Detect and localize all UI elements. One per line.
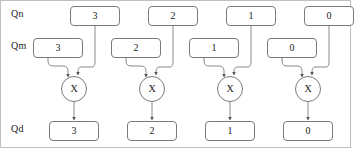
qn-box-stage-3[interactable]: 1 bbox=[226, 6, 276, 26]
qd-box-stage-3[interactable]: 1 bbox=[205, 121, 255, 141]
qn-value-stage-1: 3 bbox=[71, 7, 119, 25]
multiplier-node-stage-4[interactable]: X bbox=[295, 76, 321, 102]
multiply-icon: X bbox=[140, 77, 164, 101]
row-label-qn: Qn bbox=[11, 8, 24, 19]
qn-box-stage-2[interactable]: 2 bbox=[148, 6, 198, 26]
qn-value-stage-3: 1 bbox=[227, 7, 275, 25]
qd-value-stage-4: 0 bbox=[284, 122, 332, 140]
qd-box-stage-1[interactable]: 3 bbox=[49, 121, 99, 141]
qd-box-stage-4[interactable]: 0 bbox=[283, 121, 333, 141]
qm-value-stage-2: 2 bbox=[112, 39, 160, 57]
qm-box-stage-1[interactable]: 3 bbox=[33, 38, 83, 58]
qm-value-stage-1: 3 bbox=[34, 39, 82, 57]
qm-box-stage-3[interactable]: 1 bbox=[189, 38, 239, 58]
qm-value-stage-4: 0 bbox=[268, 39, 316, 57]
row-label-qm: Qm bbox=[11, 40, 26, 51]
qd-box-stage-2[interactable]: 2 bbox=[127, 121, 177, 141]
qd-value-stage-2: 2 bbox=[128, 122, 176, 140]
multiply-icon: X bbox=[218, 77, 242, 101]
qd-value-stage-3: 1 bbox=[206, 122, 254, 140]
multiplier-node-stage-2[interactable]: X bbox=[139, 76, 165, 102]
qn-value-stage-4: 0 bbox=[305, 7, 353, 25]
qm-value-stage-3: 1 bbox=[190, 39, 238, 57]
multiply-icon: X bbox=[62, 77, 86, 101]
multiplier-node-stage-3[interactable]: X bbox=[217, 76, 243, 102]
qn-value-stage-2: 2 bbox=[149, 7, 197, 25]
row-label-qd: Qd bbox=[11, 123, 24, 134]
qd-value-stage-1: 3 bbox=[50, 122, 98, 140]
multiply-icon: X bbox=[296, 77, 320, 101]
multiplier-node-stage-1[interactable]: X bbox=[61, 76, 87, 102]
qn-box-stage-4[interactable]: 0 bbox=[304, 6, 354, 26]
qn-box-stage-1[interactable]: 3 bbox=[70, 6, 120, 26]
qm-box-stage-2[interactable]: 2 bbox=[111, 38, 161, 58]
qm-box-stage-4[interactable]: 0 bbox=[267, 38, 317, 58]
